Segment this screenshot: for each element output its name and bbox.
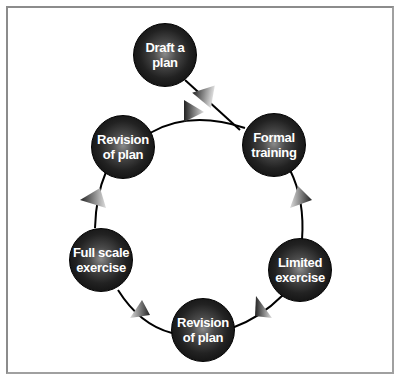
node-label: Draft a [145, 40, 184, 55]
node-draft-a-plan: Draft aplan [133, 23, 197, 87]
arrow-icon [80, 188, 106, 208]
node-revision-of-plan-bottom: Revisionof plan [171, 298, 235, 362]
node-revision-of-plan-top: Revisionof plan [91, 115, 155, 179]
node-formal-training: Formaltraining [242, 113, 306, 177]
node-full-scale-exercise: Full scaleexercise [69, 228, 133, 292]
node-label: Limited [278, 255, 322, 270]
node-label: Formal [253, 130, 295, 145]
node-label: training [251, 145, 296, 160]
node-label: of plan [183, 330, 224, 345]
node-label: Full scale [73, 245, 129, 260]
node-label: Revision [97, 132, 149, 147]
arrow-icon [184, 100, 204, 122]
arrow-icon [190, 82, 215, 108]
node-label: exercise [275, 270, 325, 285]
node-label: plan [152, 55, 178, 70]
node-label: of plan [103, 147, 144, 162]
node-label: exercise [76, 260, 126, 275]
node-label: Revision [177, 315, 229, 330]
node-limited-exercise: Limitedexercise [268, 238, 332, 302]
